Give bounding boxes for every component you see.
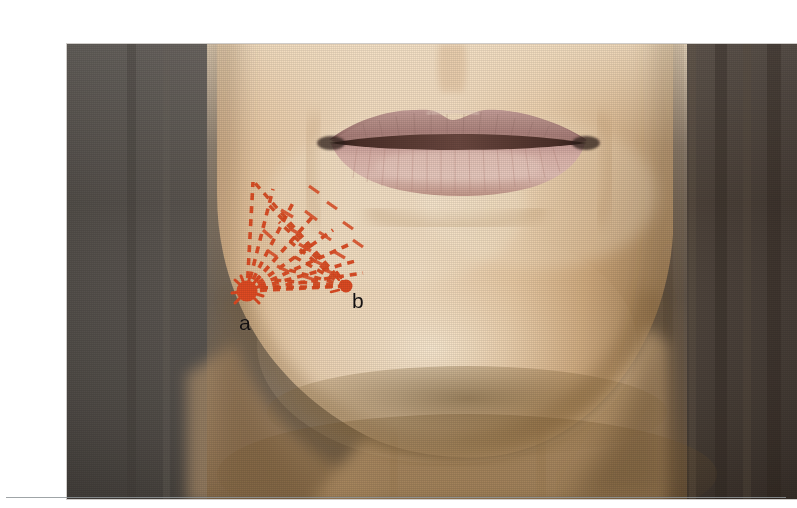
marker-dot-b [340,280,353,293]
photograph-image [67,44,797,499]
left-commissure [317,136,345,150]
philtrum [438,44,467,92]
clinical-photograph-figure: a b [67,44,797,499]
right-commissure [572,136,600,150]
marker-dot-a [237,281,258,302]
page-divider-rule [6,497,786,498]
lower-lip-highlight [375,149,543,183]
